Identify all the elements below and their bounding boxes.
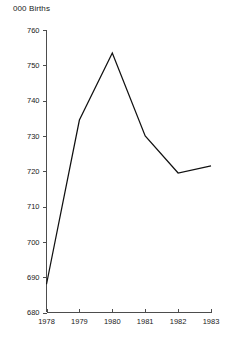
y-tick-label: 740: [27, 96, 40, 105]
x-tick-label: 1983: [203, 317, 220, 326]
x-tick-label: 1981: [137, 317, 154, 326]
y-tick-label: 750: [27, 61, 40, 70]
y-tick-label: 730: [27, 132, 40, 141]
x-tick-label: 1980: [104, 317, 121, 326]
y-tick-group: 680690700710720730740750760: [27, 26, 47, 318]
y-tick-label: 710: [27, 202, 40, 211]
y-tick-label: 700: [27, 238, 40, 247]
series-line-births: [47, 53, 212, 284]
y-tick-label: 720: [27, 167, 40, 176]
y-tick-label: 760: [27, 26, 40, 35]
y-tick-label: 690: [27, 273, 40, 282]
chart-plot-area: 680690700710720730740750760 197819791980…: [0, 0, 232, 341]
x-tick-group: 197819791980198119821983: [38, 309, 219, 326]
x-tick-label: 1978: [38, 317, 55, 326]
x-tick-label: 1979: [71, 317, 88, 326]
line-chart: 000 Births 680690700710720730740750760 1…: [0, 0, 232, 341]
x-tick-label: 1982: [170, 317, 187, 326]
